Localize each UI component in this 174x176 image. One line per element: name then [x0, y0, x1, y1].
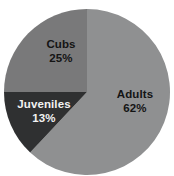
pie-label-cubs-name: Cubs — [32, 38, 90, 52]
pie-label-juveniles-name: Juveniles — [8, 98, 80, 112]
pie-label-adults: Adults 62% — [104, 88, 166, 115]
pie-chart-figure: Adults 62% Juveniles 13% Cubs 25% — [0, 0, 174, 176]
pie-label-juveniles-value: 13% — [8, 112, 80, 126]
pie-label-adults-name: Adults — [104, 88, 166, 102]
pie-label-juveniles: Juveniles 13% — [8, 98, 80, 125]
pie-label-cubs: Cubs 25% — [32, 38, 90, 65]
pie-label-cubs-value: 25% — [32, 52, 90, 66]
pie-label-adults-value: 62% — [104, 102, 166, 116]
